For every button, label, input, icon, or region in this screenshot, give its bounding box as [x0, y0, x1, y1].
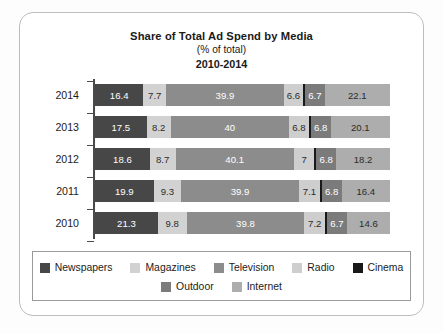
bar-segment-television[interactable]: 40	[171, 116, 289, 138]
y-axis-label: 2012	[42, 153, 86, 165]
chart-subtitle: (% of total)	[20, 43, 423, 57]
bar-segment-magazines[interactable]: 8.7	[150, 148, 176, 170]
legend-item-cinema[interactable]: Cinema	[353, 262, 404, 273]
legend-label: Television	[229, 262, 275, 273]
legend-row: OutdoorInternet	[33, 277, 410, 296]
y-axis-label: 2011	[42, 185, 86, 197]
bar-row: 201317.58.2406.86.820.1	[42, 111, 402, 143]
bar-segment-television[interactable]: 39.9	[181, 180, 299, 202]
bar-segment-newspapers[interactable]: 18.6	[95, 148, 150, 170]
bar-segment-television[interactable]: 39.9	[166, 84, 284, 106]
stacked-bar[interactable]: 18.68.740.176.818.2	[95, 148, 390, 170]
page-title: Share of Total Ad Spend by Media	[20, 29, 423, 43]
legend-swatch-icon	[232, 282, 242, 292]
bar-row: 201119.99.339.97.16.816.4	[42, 175, 402, 207]
chart-period: 2010-2014	[20, 57, 423, 71]
legend-item-magazines[interactable]: Magazines	[130, 262, 195, 273]
bar-segment-television[interactable]: 39.8	[187, 212, 304, 234]
legend-label: Outdoor	[176, 281, 214, 292]
stacked-bar[interactable]: 16.47.739.96.66.722.1	[95, 84, 390, 106]
bar-segment-internet[interactable]: 22.1	[325, 84, 390, 106]
bar-segment-radio[interactable]: 7.1	[299, 180, 320, 202]
legend-swatch-icon	[214, 263, 224, 273]
bar-segment-radio[interactable]: 7.2	[304, 212, 325, 234]
bar-segment-newspapers[interactable]: 21.3	[95, 212, 158, 234]
legend-swatch-icon	[161, 282, 171, 292]
chart-page: Share of Total Ad Spend by Media (% of t…	[0, 0, 443, 333]
bar-segment-internet[interactable]: 16.4	[342, 180, 390, 202]
bar-segment-internet[interactable]: 18.2	[336, 148, 390, 170]
chart-title-block: Share of Total Ad Spend by Media (% of t…	[20, 29, 423, 71]
bar-row: 201218.68.740.176.818.2	[42, 143, 402, 175]
legend-item-internet[interactable]: Internet	[232, 281, 282, 292]
legend-swatch-icon	[292, 263, 302, 273]
bar-segment-radio[interactable]: 7	[294, 148, 315, 170]
y-axis-label: 2013	[42, 121, 86, 133]
bar-segment-internet[interactable]: 20.1	[331, 116, 390, 138]
stacked-bar[interactable]: 17.58.2406.86.820.1	[95, 116, 390, 138]
bar-row: 201416.47.739.96.66.722.1	[42, 79, 402, 111]
legend-swatch-icon	[130, 263, 140, 273]
bar-segment-newspapers[interactable]: 17.5	[95, 116, 147, 138]
bar-segment-magazines[interactable]: 9.8	[158, 212, 187, 234]
bar-segment-television[interactable]: 40.1	[176, 148, 294, 170]
bar-segment-outdoor[interactable]: 6.7	[327, 212, 347, 234]
legend-label: Radio	[307, 262, 334, 273]
legend-label: Cinema	[368, 262, 404, 273]
chart-card: Share of Total Ad Spend by Media (% of t…	[19, 12, 424, 316]
y-axis-label: 2014	[42, 89, 86, 101]
bar-segment-internet[interactable]: 14.6	[347, 212, 390, 234]
y-axis-tick	[87, 241, 94, 242]
bar-segment-outdoor[interactable]: 6.8	[311, 116, 331, 138]
bar-row: 201021.39.839.87.26.714.6	[42, 207, 402, 239]
bar-segment-magazines[interactable]: 9.3	[154, 180, 181, 202]
bar-segment-magazines[interactable]: 8.2	[147, 116, 171, 138]
legend-label: Newspapers	[55, 262, 113, 273]
legend-item-newspapers[interactable]: Newspapers	[40, 262, 113, 273]
bar-rows: 201416.47.739.96.66.722.1201317.58.2406.…	[42, 79, 402, 239]
legend-item-outdoor[interactable]: Outdoor	[161, 281, 214, 292]
legend-swatch-icon	[40, 263, 50, 273]
bar-segment-radio[interactable]: 6.6	[284, 84, 303, 106]
bar-segment-outdoor[interactable]: 6.8	[322, 180, 342, 202]
legend-swatch-icon	[353, 263, 363, 273]
bar-segment-newspapers[interactable]: 19.9	[95, 180, 154, 202]
bar-segment-outdoor[interactable]: 6.8	[316, 148, 336, 170]
legend-item-television[interactable]: Television	[214, 262, 275, 273]
bar-segment-magazines[interactable]: 7.7	[143, 84, 166, 106]
bar-segment-radio[interactable]: 6.8	[289, 116, 309, 138]
legend-label: Internet	[247, 281, 282, 292]
legend-label: Magazines	[145, 262, 195, 273]
plot-area: 201416.47.739.96.66.722.1201317.58.2406.…	[42, 79, 402, 239]
bar-segment-outdoor[interactable]: 6.7	[305, 84, 325, 106]
legend-row: NewspapersMagazinesTelevisionRadioCinema	[33, 258, 410, 277]
stacked-bar[interactable]: 19.99.339.97.16.816.4	[95, 180, 390, 202]
chart-legend: NewspapersMagazinesTelevisionRadioCinema…	[32, 251, 411, 301]
legend-item-radio[interactable]: Radio	[292, 262, 334, 273]
bar-segment-newspapers[interactable]: 16.4	[95, 84, 143, 106]
y-axis-label: 2010	[42, 217, 86, 229]
stacked-bar[interactable]: 21.39.839.87.26.714.6	[95, 212, 390, 234]
